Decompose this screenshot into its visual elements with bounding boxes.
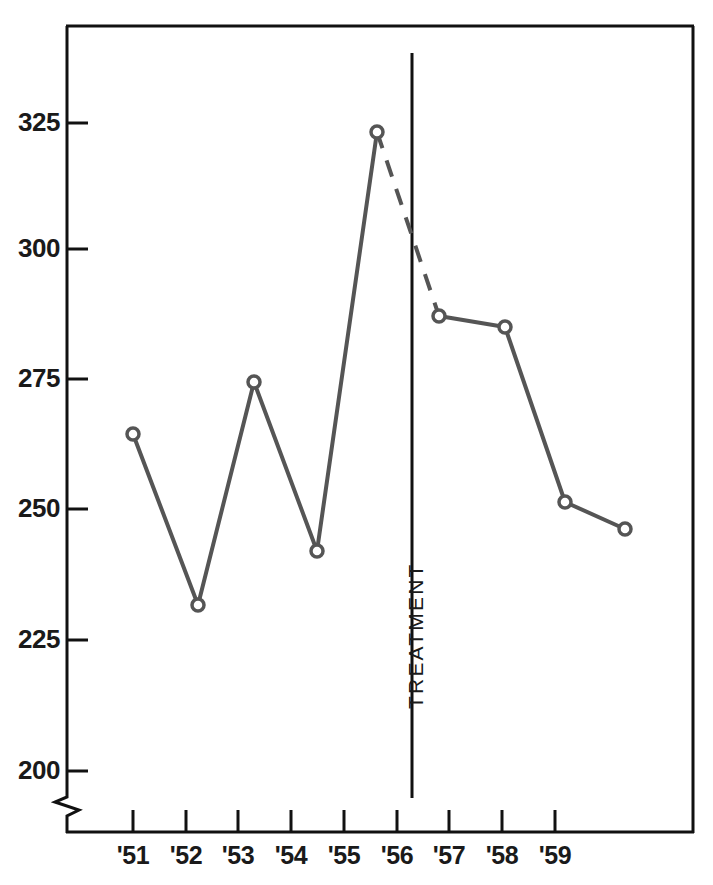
line-chart-figure: 325 300 275 250 225 200 '51 '52 '53 '54 … (0, 0, 713, 885)
data-line-pre-treatment (133, 132, 377, 605)
data-point (499, 321, 511, 333)
y-axis-ticks (67, 123, 88, 771)
data-point (619, 523, 631, 535)
y-axis-tick-label-250: 250 (0, 493, 60, 524)
y-axis-tick-label-225: 225 (0, 624, 60, 655)
data-line-transition-dashed (377, 132, 439, 316)
treatment-annotation-label: TREATMENT (404, 562, 428, 709)
chart-canvas (0, 0, 713, 885)
data-point-markers (127, 126, 631, 611)
y-axis-tick-label-275: 275 (0, 363, 60, 394)
y-axis-tick-label-200: 200 (0, 755, 60, 786)
data-point (559, 496, 571, 508)
y-axis-tick-label-300: 300 (0, 233, 60, 264)
data-point (127, 428, 139, 440)
data-point (433, 310, 445, 322)
y-axis-break-icon (55, 792, 79, 820)
x-axis-tick-label-59: '59 (515, 841, 595, 870)
data-point (311, 545, 323, 557)
x-axis-ticks (133, 810, 555, 832)
y-axis-tick-label-325: 325 (0, 107, 60, 138)
data-point (192, 599, 204, 611)
data-point (371, 126, 383, 138)
data-line-post-treatment (439, 316, 625, 529)
data-point (248, 376, 260, 388)
